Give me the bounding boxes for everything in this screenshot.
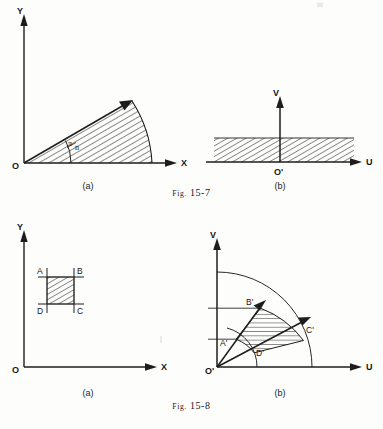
scan-speck: [317, 3, 323, 7]
u-axis-label: U: [366, 362, 373, 372]
corner-label-c: C: [77, 306, 83, 316]
figure-15-8-caption-number: 15-8: [190, 400, 211, 411]
y-axis-label: Y: [17, 222, 23, 232]
figure-15-8-panel-b: V U O' B' A' C' D' (b): [190, 215, 383, 415]
figure-plate: Y X π n O (a): [0, 0, 383, 429]
corner-label-a: A: [37, 266, 43, 276]
figure-15-8-caption: Fig. 15-8: [0, 400, 383, 411]
figure-15-7-caption: Fig. 15-7: [0, 187, 383, 198]
origin-label: O': [274, 167, 283, 177]
u-axis-label: U: [366, 157, 373, 167]
figure-15-7-caption-prefix: Fig.: [172, 189, 186, 198]
figure-15-8-caption-prefix: Fig.: [172, 402, 186, 411]
v-axis-label: V: [273, 88, 279, 98]
scan-speck: [160, 336, 162, 343]
figure-15-7-caption-number: 15-7: [190, 187, 211, 198]
y-axis: [20, 14, 27, 163]
v-axis-label: V: [210, 230, 216, 240]
panel-label-b: (b): [275, 388, 286, 398]
corner-label-b: B: [77, 266, 83, 276]
corner-label-c-prime: C': [306, 325, 314, 335]
y-axis: [20, 230, 27, 367]
origin-label: O: [12, 365, 19, 375]
shaded-annular-sector: [236, 308, 304, 353]
corner-label-d-prime: D': [256, 348, 264, 358]
angle-label-denominator: n: [75, 143, 79, 152]
shaded-square: [47, 277, 74, 304]
u-axis: [217, 363, 362, 370]
figure-15-7-panel-a: Y X π n O (a): [0, 0, 200, 200]
corner-label-a-prime: A': [220, 338, 228, 348]
x-axis-label: X: [161, 362, 167, 372]
y-axis-label: Y: [17, 6, 23, 16]
corner-label-b-prime: B': [246, 297, 254, 307]
panel-label-a: (a): [83, 388, 94, 398]
shaded-strip: [214, 138, 354, 162]
x-axis-label: X: [181, 158, 187, 168]
x-axis: [24, 363, 157, 370]
shaded-sector: [24, 101, 152, 163]
figure-15-8-panel-a: Y X O A B C D: [0, 215, 200, 415]
corner-label-d: D: [37, 306, 43, 316]
origin-label: O': [205, 366, 214, 376]
figure-15-7-panel-b: V U O' (b): [190, 0, 383, 200]
origin-label: O: [12, 161, 19, 171]
